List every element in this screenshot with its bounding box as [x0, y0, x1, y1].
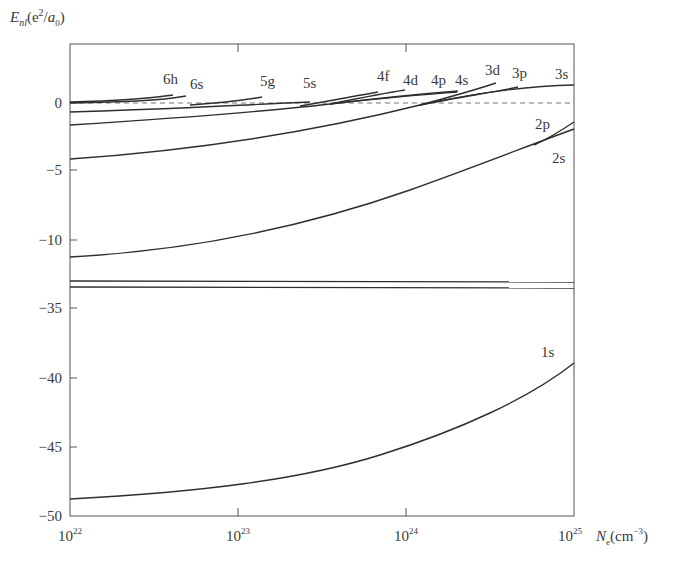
x-axis-title: Ne(cm−3) [595, 526, 648, 547]
label-5g: 5g [260, 73, 276, 89]
y-tick-0: 0 [55, 95, 63, 111]
curve-1s [70, 363, 574, 499]
y-tick-minus10: −10 [39, 232, 62, 248]
curve-5g [190, 97, 262, 105]
y-ticks [70, 103, 77, 447]
label-3d: 3d [485, 62, 501, 78]
label-2s: 2s [552, 150, 566, 166]
x-tick-labels: 1022 1023 1024 1025 [58, 526, 583, 544]
curve-2s [70, 129, 574, 257]
label-4s: 4s [455, 72, 469, 88]
label-6s: 6s [190, 76, 204, 92]
label-6h: 6h [163, 71, 179, 87]
energy-level-chart: Enl(e2/a0) 0 −5 −10 −35 −40 −45 −50 1022… [0, 0, 687, 565]
y-tick-minus5: −5 [46, 162, 62, 178]
x-tick-1e22: 1022 [58, 526, 82, 544]
y-tick-labels: 0 −5 −10 −35 −40 −45 −50 [39, 95, 62, 524]
curves [70, 83, 574, 499]
plot-frame [70, 44, 574, 516]
y-tick-minus50: −50 [39, 508, 62, 524]
label-3s: 3s [555, 66, 569, 82]
label-3p: 3p [512, 65, 527, 81]
label-5s: 5s [303, 75, 317, 91]
axis-break-upper-line [70, 281, 574, 282]
x-tick-1e25: 1025 [558, 526, 583, 544]
label-2p: 2p [535, 116, 550, 132]
label-4f: 4f [377, 68, 390, 84]
x-tick-1e23: 1023 [226, 526, 251, 544]
label-4p: 4p [431, 72, 446, 88]
x-tick-1e24: 1024 [394, 526, 419, 544]
axis-break-lower-line [70, 287, 574, 288]
curve-3p [420, 87, 518, 105]
y-tick-minus35: −35 [39, 300, 62, 316]
y-tick-minus40: −40 [39, 370, 62, 386]
y-axis-title: Enl(e2/a0) [9, 7, 65, 28]
curve-3s [70, 85, 574, 159]
curve-6h [70, 95, 173, 102]
y-tick-minus45: −45 [39, 439, 62, 455]
label-1s: 1s [541, 344, 555, 360]
curve-4f [300, 92, 378, 106]
label-4d: 4d [403, 72, 419, 88]
curve-4s [70, 91, 458, 125]
